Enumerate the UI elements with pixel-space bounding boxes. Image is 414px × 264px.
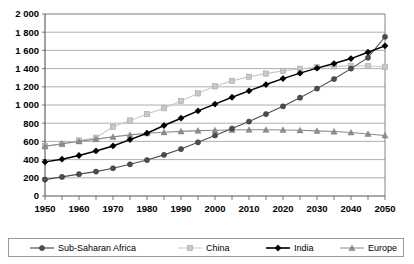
data-point: [263, 112, 268, 117]
legend-item-india[interactable]: India: [265, 239, 314, 256]
data-point: [76, 152, 83, 159]
data-point: [246, 87, 253, 94]
data-point: [382, 34, 387, 39]
data-point: [229, 94, 236, 101]
data-point: [93, 169, 98, 174]
x-axis-tick-label: 2050: [374, 203, 395, 214]
data-point: [110, 124, 115, 129]
y-axis-tick-label: 2 000: [15, 8, 39, 19]
legend-item-china[interactable]: China: [177, 239, 230, 256]
data-point: [246, 74, 251, 79]
data-point: [229, 78, 234, 83]
data-point: [382, 64, 387, 69]
x-axis-tick-label: 1970: [102, 203, 123, 214]
data-point: [246, 119, 251, 124]
x-axis-tick-label: 1950: [34, 203, 55, 214]
data-point: [314, 86, 319, 91]
data-point: [263, 71, 268, 76]
chart-legend: Sub-Saharan AfricaChinaIndiaEurope: [8, 238, 404, 257]
data-point: [195, 140, 200, 145]
y-axis-tick-label: 600: [23, 136, 39, 147]
data-point: [212, 133, 217, 138]
y-axis-tick-label: 800: [23, 118, 39, 129]
y-axis-tick-label: 400: [23, 154, 39, 165]
x-axis-tick-label: 1990: [170, 203, 191, 214]
data-point: [161, 105, 166, 110]
data-point: [365, 63, 370, 68]
data-point: [280, 75, 287, 82]
y-axis-tick-label: 1 200: [15, 81, 39, 92]
data-point: [280, 104, 285, 109]
data-point: [178, 115, 185, 122]
data-point: [195, 108, 202, 115]
data-point: [178, 146, 183, 151]
data-point: [59, 156, 66, 163]
data-point: [127, 118, 132, 123]
data-point: [110, 143, 117, 150]
y-axis-tick-label: 0: [34, 190, 39, 201]
data-point: [127, 162, 132, 167]
data-point: [178, 98, 183, 103]
data-point: [297, 95, 302, 100]
x-axis-tick-label: 2030: [306, 203, 327, 214]
data-point: [76, 172, 81, 177]
series-india: [42, 42, 389, 165]
data-point: [331, 76, 336, 81]
y-axis-tick-label: 1 400: [15, 63, 39, 74]
series-line: [45, 37, 385, 180]
y-axis-tick-label: 200: [23, 172, 39, 183]
legend-label: China: [206, 243, 230, 253]
y-axis-tick-label: 1 800: [15, 27, 39, 38]
data-point: [212, 101, 219, 108]
x-axis-tick-label: 2000: [204, 203, 225, 214]
data-point: [161, 152, 166, 157]
population-line-chart: 02004006008001 0001 2001 4001 6001 8002 …: [0, 0, 414, 264]
legend-marker-circle-icon: [29, 242, 55, 254]
data-point: [144, 111, 149, 116]
legend-label: Sub-Saharan Africa: [58, 243, 136, 253]
legend-marker-triangle-icon: [339, 242, 365, 254]
data-point: [280, 68, 285, 73]
plot-area: 02004006008001 0001 2001 4001 6001 8002 …: [0, 0, 414, 264]
data-point: [348, 55, 355, 62]
x-axis-tick-label: 2020: [272, 203, 293, 214]
y-axis-tick-label: 1 000: [15, 99, 39, 110]
y-axis-tick-label: 1 600: [15, 45, 39, 56]
legend-label: India: [294, 243, 314, 253]
x-axis-tick-label: 2010: [238, 203, 259, 214]
data-point: [365, 55, 370, 60]
data-point: [93, 148, 100, 155]
x-axis-tick-label: 1980: [136, 203, 157, 214]
legend-marker-square-icon: [177, 242, 203, 254]
data-point: [59, 174, 64, 179]
legend-marker-diamond-icon: [265, 242, 291, 254]
data-point: [212, 84, 217, 89]
data-point: [348, 66, 353, 71]
x-axis-tick-label: 1960: [68, 203, 89, 214]
legend-label: Europe: [368, 243, 397, 253]
x-axis-tick-label: 2040: [340, 203, 361, 214]
data-point: [110, 166, 115, 171]
data-point: [195, 91, 200, 96]
legend-item-europe[interactable]: Europe: [339, 239, 397, 256]
data-point: [229, 126, 234, 131]
data-point: [42, 177, 47, 182]
data-point: [144, 157, 149, 162]
legend-item-sub-saharan-africa[interactable]: Sub-Saharan Africa: [29, 239, 136, 256]
series-sub-saharan-africa: [42, 34, 387, 182]
data-point: [382, 42, 389, 49]
